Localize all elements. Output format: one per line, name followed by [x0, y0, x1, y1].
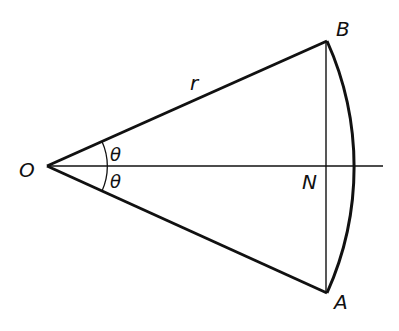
label-theta-lower: θ	[110, 171, 121, 192]
segment-OB	[47, 41, 327, 166]
sector-diagram: O B A N r θ θ	[0, 0, 399, 331]
label-N: N	[302, 170, 317, 194]
label-A: A	[332, 290, 348, 314]
label-r: r	[190, 71, 200, 95]
label-O: O	[19, 158, 35, 182]
arc-AB	[327, 41, 354, 293]
label-B: B	[336, 17, 350, 41]
label-theta-upper: θ	[110, 144, 121, 165]
segment-OA	[47, 166, 327, 293]
